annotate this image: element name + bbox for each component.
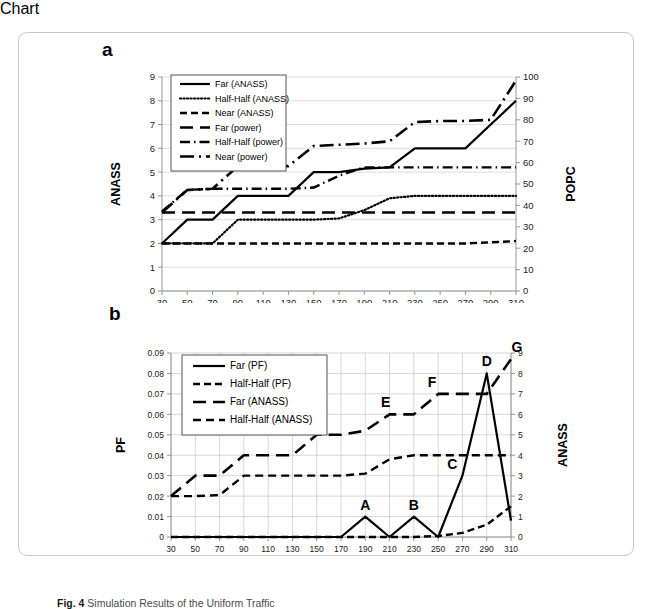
svg-text:0.04: 0.04: [147, 451, 164, 461]
svg-text:0.07: 0.07: [147, 389, 164, 399]
panel-b-label: b: [109, 303, 121, 325]
svg-text:10: 10: [523, 264, 534, 275]
svg-text:40: 40: [523, 200, 534, 211]
svg-text:70: 70: [523, 136, 534, 147]
svg-text:9: 9: [150, 71, 155, 82]
svg-text:170: 170: [334, 544, 348, 554]
svg-text:2: 2: [518, 492, 523, 502]
svg-text:0.05: 0.05: [147, 430, 164, 440]
svg-text:290: 290: [480, 544, 494, 554]
svg-text:Far (ANASS): Far (ANASS): [230, 396, 288, 407]
svg-text:150: 150: [310, 544, 324, 554]
svg-text:E: E: [381, 394, 390, 410]
svg-text:30: 30: [166, 544, 176, 554]
svg-text:5: 5: [150, 167, 155, 178]
svg-text:8: 8: [150, 95, 155, 106]
svg-text:8: 8: [518, 369, 523, 379]
svg-text:80: 80: [523, 114, 534, 125]
svg-text:250: 250: [431, 544, 445, 554]
svg-text:POPC: POPC: [564, 166, 578, 201]
svg-text:110: 110: [261, 544, 275, 554]
chart-b-svg: 00.010.020.030.040.050.060.070.080.09012…: [19, 301, 635, 557]
svg-text:0.08: 0.08: [147, 369, 164, 379]
svg-text:0: 0: [150, 285, 155, 296]
svg-text:100: 100: [523, 71, 539, 82]
svg-text:90: 90: [239, 544, 249, 554]
svg-text:70: 70: [215, 544, 225, 554]
svg-text:C: C: [447, 456, 457, 472]
chart-panel-a: a 01234567890102030405060708090100305070…: [19, 33, 635, 303]
svg-text:7: 7: [150, 119, 155, 130]
svg-text:4: 4: [150, 190, 155, 201]
svg-text:Half-Half (PF): Half-Half (PF): [230, 378, 291, 389]
svg-text:D: D: [482, 353, 492, 369]
svg-text:6: 6: [150, 143, 155, 154]
svg-text:2: 2: [150, 238, 155, 249]
svg-text:0.09: 0.09: [147, 348, 164, 358]
svg-text:1: 1: [518, 512, 523, 522]
svg-text:50: 50: [191, 544, 201, 554]
svg-text:B: B: [409, 497, 419, 513]
svg-text:230: 230: [407, 544, 421, 554]
svg-text:PF: PF: [114, 437, 128, 453]
svg-text:210: 210: [382, 544, 396, 554]
svg-text:Far (PF): Far (PF): [230, 360, 267, 371]
svg-text:130: 130: [285, 544, 299, 554]
svg-text:50: 50: [523, 178, 534, 189]
svg-text:0.06: 0.06: [147, 410, 164, 420]
svg-text:Far (power): Far (power): [215, 123, 262, 133]
figure-caption-text: Simulation Results of the Uniform Traffi…: [87, 597, 274, 609]
svg-text:Half-Half (ANASS): Half-Half (ANASS): [230, 414, 312, 425]
svg-text:Near (ANASS): Near (ANASS): [215, 108, 274, 118]
svg-text:60: 60: [523, 157, 534, 168]
svg-text:20: 20: [523, 243, 534, 254]
svg-text:1: 1: [150, 262, 155, 273]
figure-caption: Fig. 4 Simulation Results of the Uniform…: [57, 597, 617, 609]
figure-caption-prefix: Fig. 4: [57, 597, 84, 609]
chart-panel-b: b 00.010.020.030.040.050.060.070.080.090…: [19, 301, 635, 557]
svg-text:0: 0: [159, 532, 164, 542]
figure-card: a 01234567890102030405060708090100305070…: [18, 32, 634, 556]
svg-text:4: 4: [518, 451, 523, 461]
svg-text:310: 310: [504, 544, 518, 554]
svg-text:270: 270: [455, 544, 469, 554]
svg-text:A: A: [360, 497, 370, 513]
svg-text:0.01: 0.01: [147, 512, 164, 522]
svg-text:190: 190: [358, 544, 372, 554]
svg-text:ANASS: ANASS: [556, 423, 570, 467]
svg-text:Half-Half (ANASS): Half-Half (ANASS): [215, 94, 289, 104]
chart-a-svg: 0123456789010203040506070809010030507090…: [19, 33, 635, 303]
svg-text:G: G: [512, 339, 523, 355]
svg-text:F: F: [428, 374, 437, 390]
svg-text:3: 3: [518, 471, 523, 481]
svg-text:0: 0: [518, 532, 523, 542]
panel-a-label: a: [102, 39, 113, 61]
svg-text:30: 30: [523, 221, 534, 232]
svg-text:7: 7: [518, 389, 523, 399]
svg-text:ANASS: ANASS: [109, 162, 123, 206]
svg-text:Far (ANASS): Far (ANASS): [215, 79, 268, 89]
svg-text:6: 6: [518, 410, 523, 420]
svg-text:5: 5: [518, 430, 523, 440]
svg-text:0.02: 0.02: [147, 492, 164, 502]
svg-text:0.03: 0.03: [147, 471, 164, 481]
svg-text:Near (power): Near (power): [215, 152, 268, 162]
svg-text:0: 0: [523, 285, 528, 296]
svg-text:3: 3: [150, 214, 155, 225]
svg-text:Half-Half (power): Half-Half (power): [215, 137, 283, 147]
svg-text:90: 90: [523, 93, 534, 104]
